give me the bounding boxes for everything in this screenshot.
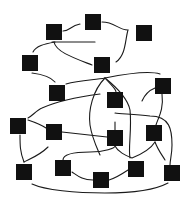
- edge: [90, 78, 105, 155]
- node-n12: [146, 125, 162, 141]
- node-n5: [94, 57, 110, 73]
- edge: [62, 132, 107, 137]
- node-n7: [49, 85, 65, 101]
- node-n10: [46, 124, 62, 140]
- node-n17: [164, 165, 180, 181]
- node-n15: [93, 172, 109, 188]
- edge: [54, 42, 92, 65]
- node-n13: [16, 164, 32, 180]
- edge: [24, 147, 48, 162]
- edge: [155, 142, 165, 160]
- node-n3: [136, 25, 152, 41]
- edge: [32, 73, 55, 82]
- node-n1: [46, 24, 62, 40]
- node-n6: [155, 78, 171, 94]
- node-n4: [22, 55, 38, 71]
- edge: [63, 24, 80, 31]
- edge: [33, 42, 55, 52]
- node-n11: [107, 130, 123, 146]
- edge: [102, 22, 128, 62]
- edge: [142, 88, 155, 101]
- node-n9: [10, 118, 26, 134]
- edge: [109, 170, 128, 180]
- edge: [66, 72, 160, 84]
- edge: [105, 78, 116, 92]
- edge: [72, 172, 93, 180]
- edge: [20, 135, 24, 162]
- graph-diagram: [0, 0, 190, 216]
- edge: [156, 94, 162, 125]
- edge: [28, 120, 46, 128]
- node-n16: [128, 161, 144, 177]
- node-n8: [107, 92, 123, 108]
- node-n14: [55, 160, 71, 176]
- nodes-layer: [10, 14, 180, 188]
- node-n2: [85, 14, 101, 30]
- edges-layer: [20, 22, 172, 193]
